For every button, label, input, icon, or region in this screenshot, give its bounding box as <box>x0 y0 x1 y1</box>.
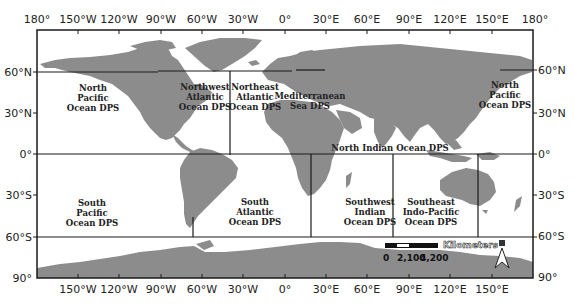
lon-tick-bottom-150e: 150°E <box>475 283 508 296</box>
region-label-line: Atlantic <box>229 207 282 217</box>
lat-tick-left-60s: 60°S <box>6 231 32 244</box>
region-northeast-atlantic: Northeast Atlantic Ocean DPS <box>229 82 282 112</box>
lon-tick-bottom-150w: 150°W <box>59 283 96 296</box>
region-south-pacific: South Pacific Ocean DPS <box>66 198 119 228</box>
region-southeast-indo-pacific: Southeast Indo-Pacific Ocean DPS <box>403 197 460 227</box>
region-label-line: Sea DPS <box>274 101 345 111</box>
region-label-line: Ocean DPS <box>179 102 232 112</box>
lat-tick-left-30s: 30°S <box>6 189 32 202</box>
region-label-line: South <box>66 198 119 208</box>
lon-tick-top-90w: 90°W <box>146 13 176 26</box>
region-label-line: Indo-Pacific <box>403 207 460 217</box>
lon-tick-bottom-60w: 60°W <box>187 283 217 296</box>
lon-tick-top-180-right: 180° <box>522 13 549 26</box>
region-mediterranean: Mediterranean Sea DPS <box>274 91 345 111</box>
lon-tick-bottom-90w: 90°W <box>146 283 176 296</box>
region-label-line: Ocean DPS <box>403 217 460 227</box>
lat-tick-left-0: 0° <box>20 148 33 161</box>
lon-tick-bottom-90e: 90°E <box>396 283 422 296</box>
lon-tick-top-30w: 30°W <box>228 13 258 26</box>
region-northwest-atlantic: Northwest Atlantic Ocean DPS <box>179 82 232 112</box>
world-map <box>0 0 574 304</box>
region-southwest-indian: Southwest Indian Ocean DPS <box>344 197 397 227</box>
lon-tick-top-60e: 60°E <box>354 13 380 26</box>
scale-bar <box>385 243 438 248</box>
region-label-line: Mediterranean <box>274 91 345 101</box>
lat-tick-right-0: 0° <box>538 148 551 161</box>
lon-tick-bottom-60e: 60°E <box>354 283 380 296</box>
region-label-line: Ocean DPS <box>67 103 120 113</box>
lat-tick-right-30s: 30°S <box>538 189 564 202</box>
region-label-line: Atlantic <box>229 92 282 102</box>
region-label-line: Ocean DPS <box>344 217 397 227</box>
scale-bar-label-4200: 4,200 <box>420 253 448 263</box>
lat-tick-left-60n: 60°N <box>4 66 32 79</box>
region-north-pacific-west: North Pacific Ocean DPS <box>67 83 120 113</box>
lon-tick-top-0: 0° <box>279 13 292 26</box>
lon-tick-top-150e: 150°E <box>475 13 508 26</box>
lat-tick-right-30n: 30°N <box>538 107 566 120</box>
region-label-line: Ocean DPS <box>479 100 532 110</box>
lon-tick-top-180: 180° <box>24 13 51 26</box>
lon-tick-top-120e: 120°E <box>433 13 466 26</box>
region-label-line: Northwest <box>179 82 232 92</box>
region-label-line: Pacific <box>479 90 532 100</box>
region-label-line: Pacific <box>67 93 120 103</box>
lon-tick-bottom-120e: 120°E <box>433 283 466 296</box>
lon-tick-bottom-30w: 30°W <box>228 283 258 296</box>
region-label-line: Ocean DPS <box>66 218 119 228</box>
region-label-line: North Indian Ocean DPS <box>331 143 449 153</box>
region-label-line: Northeast <box>229 82 282 92</box>
lon-tick-top-90e: 90°E <box>396 13 422 26</box>
lat-tick-right-60n: 60°N <box>538 64 566 77</box>
region-label-line: Southwest <box>344 197 397 207</box>
region-north-indian: North Indian Ocean DPS <box>331 143 449 153</box>
lon-tick-bottom-120w: 120°W <box>100 283 137 296</box>
region-label-line: Indian <box>344 207 397 217</box>
lon-tick-top-150w: 150°W <box>59 13 96 26</box>
lon-tick-top-30e: 30°E <box>313 13 339 26</box>
region-label-line: North <box>67 83 120 93</box>
greenland <box>185 38 262 72</box>
lat-tick-left-90: 90° <box>13 272 33 285</box>
region-south-atlantic: South Atlantic Ocean DPS <box>229 197 282 227</box>
lat-tick-left-30n: 30°N <box>4 107 32 120</box>
lat-tick-right-60s: 60°S <box>538 230 564 243</box>
lat-tick-right-90: 90° <box>538 271 558 284</box>
lon-tick-bottom-30e: 30°E <box>313 283 339 296</box>
scale-bar-title: Kilometers <box>443 240 498 250</box>
region-label-line: North <box>479 80 532 90</box>
region-label-line: Southeast <box>403 197 460 207</box>
region-north-pacific-east: North Pacific Ocean DPS <box>479 80 532 110</box>
lon-tick-top-120w: 120°W <box>100 13 137 26</box>
region-label-line: Ocean DPS <box>229 102 282 112</box>
lon-tick-bottom-0: 0° <box>279 283 292 296</box>
scale-bar-label-0: 0 <box>383 253 389 263</box>
region-label-line: Pacific <box>66 208 119 218</box>
region-label-line: Ocean DPS <box>229 217 282 227</box>
region-label-line: Atlantic <box>179 92 232 102</box>
region-label-line: South <box>229 197 282 207</box>
lon-tick-top-60w: 60°W <box>187 13 217 26</box>
